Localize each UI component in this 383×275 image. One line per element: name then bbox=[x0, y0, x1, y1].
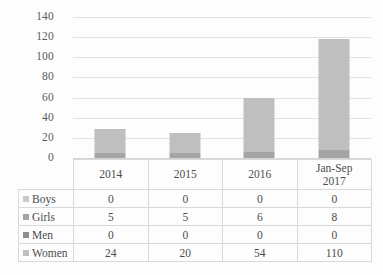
category-header-text: 2016 bbox=[223, 168, 297, 181]
category-header-text: 2014 bbox=[74, 168, 148, 181]
data-cell: 0 bbox=[74, 190, 149, 208]
data-cell: 0 bbox=[148, 226, 223, 244]
table-header-row: 201420152016Jan-Sep2017 bbox=[19, 160, 372, 190]
data-cell: 6 bbox=[223, 208, 298, 226]
data-cell: 20 bbox=[148, 244, 223, 262]
y-tick-label-40: 40 bbox=[0, 112, 54, 124]
category-header-text: 2015 bbox=[149, 168, 223, 181]
data-table-body: Boys0000Girls5568Men0000Women242054110 bbox=[19, 190, 372, 262]
bar-segment-women[interactable] bbox=[244, 98, 275, 152]
y-tick-label-20: 20 bbox=[0, 132, 54, 144]
bar-segment-girls[interactable] bbox=[244, 152, 275, 158]
bar-segment-women[interactable] bbox=[169, 133, 200, 153]
category-header-cell: Jan-Sep2017 bbox=[297, 160, 372, 190]
series-name-label: Men bbox=[32, 229, 53, 241]
data-cell: 0 bbox=[223, 190, 298, 208]
table-row: Girls5568 bbox=[19, 208, 372, 226]
bar-stack[interactable] bbox=[244, 98, 275, 158]
category-header-cell: 2016 bbox=[223, 160, 298, 190]
y-tick-label-140: 140 bbox=[0, 11, 54, 23]
chart-data-table: 201420152016Jan-Sep2017 Boys0000Girls556… bbox=[18, 159, 372, 262]
category-header-cell: 2014 bbox=[74, 160, 149, 190]
y-tick-label-100: 100 bbox=[0, 51, 54, 63]
bar-segment-girls[interactable] bbox=[95, 153, 126, 158]
series-legend-cell-boys: Boys bbox=[19, 190, 74, 208]
bar-column bbox=[222, 17, 297, 158]
category-header-text: 2017 bbox=[298, 175, 372, 188]
data-cell: 54 bbox=[223, 244, 298, 262]
data-table-header: 201420152016Jan-Sep2017 bbox=[19, 160, 372, 190]
bar-segment-women[interactable] bbox=[318, 39, 349, 150]
data-cell: 24 bbox=[74, 244, 149, 262]
legend-swatch-icon bbox=[23, 250, 29, 256]
series-legend-cell-men: Men bbox=[19, 226, 74, 244]
bar-segment-women[interactable] bbox=[95, 129, 126, 153]
bar-segment-girls[interactable] bbox=[169, 153, 200, 158]
bar-stack[interactable] bbox=[318, 39, 349, 158]
legend-swatch-icon bbox=[23, 196, 29, 202]
bar-segment-girls[interactable] bbox=[318, 150, 349, 158]
y-tick-label-60: 60 bbox=[0, 92, 54, 104]
data-cell: 0 bbox=[297, 190, 372, 208]
table-row: Men0000 bbox=[19, 226, 372, 244]
data-cell: 0 bbox=[297, 226, 372, 244]
bar-column bbox=[148, 17, 223, 158]
series-name-label: Women bbox=[32, 247, 67, 259]
series-name-label: Girls bbox=[32, 211, 55, 223]
stacked-column-chart-with-data-table: 140120100806040200 201420152016Jan-Sep20… bbox=[0, 0, 383, 275]
table-corner-cell bbox=[19, 160, 74, 190]
table-row: Women242054110 bbox=[19, 244, 372, 262]
series-name-label: Boys bbox=[32, 193, 56, 205]
bar-column bbox=[297, 17, 372, 158]
data-cell: 0 bbox=[148, 190, 223, 208]
data-cell: 8 bbox=[297, 208, 372, 226]
y-tick-label-120: 120 bbox=[0, 31, 54, 43]
table-row: Boys0000 bbox=[19, 190, 372, 208]
data-cell: 0 bbox=[74, 226, 149, 244]
y-tick-label-80: 80 bbox=[0, 71, 54, 83]
data-cell: 0 bbox=[223, 226, 298, 244]
category-header-text: Jan-Sep bbox=[298, 162, 372, 175]
series-legend-cell-girls: Girls bbox=[19, 208, 74, 226]
bar-stack[interactable] bbox=[169, 133, 200, 158]
data-cell: 110 bbox=[297, 244, 372, 262]
bar-stack[interactable] bbox=[95, 129, 126, 158]
category-header-cell: 2015 bbox=[148, 160, 223, 190]
legend-swatch-icon bbox=[23, 232, 29, 238]
series-legend-cell-women: Women bbox=[19, 244, 74, 262]
data-cell: 5 bbox=[148, 208, 223, 226]
bar-column bbox=[73, 17, 148, 158]
data-cell: 5 bbox=[74, 208, 149, 226]
legend-swatch-icon bbox=[23, 214, 29, 220]
plot-area: 140120100806040200 bbox=[73, 17, 371, 158]
